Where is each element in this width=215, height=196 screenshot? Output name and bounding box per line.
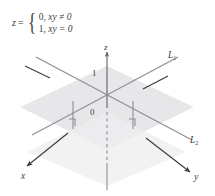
marker-label-origin: 0 — [90, 108, 95, 117]
axis-label-y: y — [194, 173, 198, 183]
coordinate-system-drawing — [0, 0, 215, 196]
marker-label-one: 1 — [92, 69, 97, 78]
axis-label-x: x — [21, 172, 25, 182]
leader-line-left — [25, 66, 50, 78]
line-label-L2-sub: 2 — [195, 140, 198, 146]
figure-canvas: z = { 0, xy ≠ 0 1, xy = 0 — [0, 0, 215, 196]
line-label-L2: L2 — [190, 136, 198, 146]
line-label-L1-sub: 1 — [173, 55, 176, 61]
axis-label-z: z — [104, 43, 108, 52]
line-label-L1: L1 — [168, 51, 176, 61]
